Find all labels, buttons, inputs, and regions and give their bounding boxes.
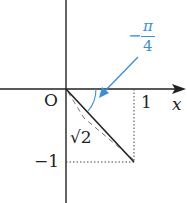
angle-arc <box>88 89 96 111</box>
x-axis-label: x <box>172 96 182 113</box>
origin-label: O <box>44 92 58 109</box>
angle-numerator: π <box>143 19 153 34</box>
complex-plane-diagram: O 1 x −1 √2 − π 4 <box>0 0 187 203</box>
angle-sign: − <box>128 28 141 44</box>
hypotenuse-label: √2 <box>70 129 92 146</box>
angle-denominator: 4 <box>143 39 153 54</box>
tick-y-label: −1 <box>34 153 59 170</box>
diagram-graphics <box>0 0 187 203</box>
vector-line <box>66 89 134 162</box>
tick-x-label: 1 <box>141 94 152 111</box>
pointer-line <box>104 57 138 92</box>
